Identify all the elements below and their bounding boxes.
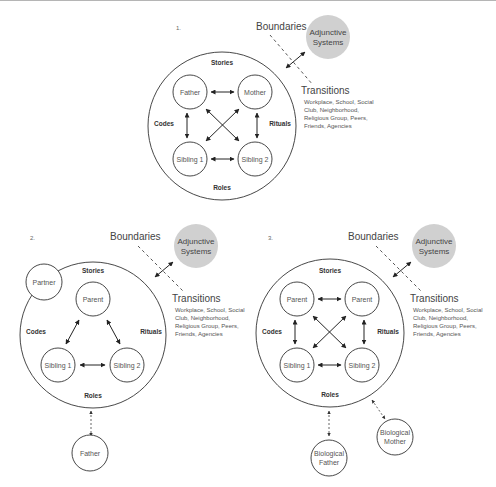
adjunctive-arrow (393, 262, 411, 277)
adjunctive-systems-node (306, 15, 350, 59)
panel-1: 1. Boundaries Adjunctive Systems Transit… (148, 15, 374, 200)
transitions-line-1: Workplace, School, Social (175, 307, 245, 313)
theme-stories: Stories (211, 59, 233, 66)
theme-rituals: Rituals (269, 120, 291, 127)
transitions-line-1: Workplace, School, Social (304, 99, 374, 105)
theme-stories: Stories (319, 267, 341, 274)
biological-father-label-line2: Father (319, 459, 340, 466)
boundaries-label: Boundaries (348, 231, 399, 242)
adjunctive-label-line1: Adjunctive (178, 237, 215, 246)
transitions-line-4: Friends, Agencies (175, 331, 223, 337)
adjunctive-label-line2: Systems (313, 38, 344, 47)
biological-mother-node (377, 419, 413, 455)
biological-mother-label-line1: Biological (380, 429, 410, 437)
transitions-line-4: Friends, Agencies (413, 331, 461, 337)
transitions-line-2: Club, Neighborhood, (413, 315, 468, 321)
transitions-line-3: Religious Group, Peers, (413, 323, 477, 329)
family-systems-diagram: 1. Boundaries Adjunctive Systems Transit… (0, 0, 496, 487)
adjunctive-label-line1: Adjunctive (310, 28, 347, 37)
transitions-line-4: Friends, Agencies (304, 123, 352, 129)
member-label: Sibling 1 (45, 362, 72, 370)
transitions-line-2: Club, Neighborhood, (175, 315, 230, 321)
panel-3: 3. Boundaries Adjunctive Systems Transit… (256, 224, 483, 476)
member-label: Sibling 2 (349, 362, 376, 370)
member-label: Parent (352, 296, 373, 303)
theme-codes: Codes (154, 120, 174, 127)
member-label: Parent (287, 296, 308, 303)
relation-arrow (66, 320, 79, 344)
theme-stories: Stories (82, 267, 104, 274)
transitions-line-1: Workplace, School, Social (413, 307, 483, 313)
transitions-title: Transitions (301, 85, 350, 96)
theme-codes: Codes (26, 328, 46, 335)
member-label: Sibling 2 (242, 156, 269, 164)
adjunctive-arrow (155, 262, 173, 277)
theme-roles: Roles (213, 184, 231, 191)
member-label: Sibling 1 (177, 156, 204, 164)
member-label: Father (180, 89, 201, 96)
member-label: Sibling 1 (284, 362, 311, 370)
relation-arrow (107, 320, 120, 344)
panel-2: 2. Boundaries Adjunctive Systems Transit… (20, 224, 245, 471)
biological-father-label-line1: Biological (314, 450, 344, 458)
theme-roles: Roles (84, 392, 102, 399)
member-label: Mother (244, 89, 266, 96)
member-label: Parent (83, 296, 104, 303)
boundary-dashed-line (270, 35, 313, 85)
adjunctive-systems-node (174, 224, 218, 268)
theme-roles: Roles (321, 391, 339, 398)
adjunctive-label-line2: Systems (419, 247, 450, 256)
biological-father-node (311, 440, 347, 476)
theme-rituals: Rituals (140, 328, 162, 335)
transitions-line-3: Religious Group, Peers, (304, 115, 368, 121)
biological-mother-label-line2: Mother (384, 438, 406, 445)
transitions-title: Transitions (410, 293, 459, 304)
panel-number: 2. (30, 235, 35, 241)
adjunctive-label-line2: Systems (181, 247, 212, 256)
boundaries-label: Boundaries (110, 231, 161, 242)
external-dotted-arrow (372, 400, 385, 419)
theme-rituals: Rituals (377, 328, 399, 335)
adjunctive-systems-node (412, 224, 456, 268)
panel-number: 1. (176, 25, 181, 31)
theme-codes: Codes (262, 328, 282, 335)
adjunctive-arrow (286, 52, 305, 68)
member-label: Sibling 2 (114, 362, 141, 370)
panel-number: 3. (268, 235, 273, 241)
transitions-title: Transitions (172, 293, 221, 304)
adjunctive-label-line1: Adjunctive (416, 237, 453, 246)
transitions-line-3: Religious Group, Peers, (175, 323, 239, 329)
partner-label: Partner (33, 279, 57, 286)
external-father-label: Father (80, 450, 101, 457)
boundaries-label: Boundaries (256, 21, 307, 32)
transitions-line-2: Club, Neighborhood, (304, 107, 359, 113)
